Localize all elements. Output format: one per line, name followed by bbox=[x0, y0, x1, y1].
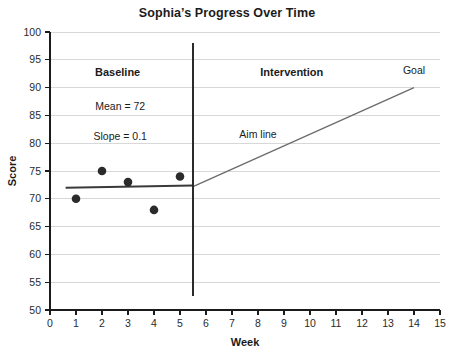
x-axis-tick-labels: 0123456789101112131415 bbox=[47, 317, 446, 329]
x-axis-tick-label: 3 bbox=[125, 317, 131, 329]
baseline-phase-label: Baseline bbox=[95, 66, 140, 78]
y-axis-tick-label: 100 bbox=[23, 26, 41, 38]
data-point-marker bbox=[124, 178, 133, 187]
y-axis-tick-label: 60 bbox=[29, 248, 41, 260]
x-axis-title: Week bbox=[231, 336, 260, 348]
data-point-marker bbox=[98, 167, 107, 176]
y-axis-tick-label: 95 bbox=[29, 53, 41, 65]
x-axis-tick-label: 13 bbox=[382, 317, 394, 329]
y-axis-tick-label: 80 bbox=[29, 137, 41, 149]
x-axis-tick-label: 4 bbox=[151, 317, 157, 329]
x-axis-tick-label: 8 bbox=[255, 317, 261, 329]
baseline-slope-label: Slope = 0.1 bbox=[93, 130, 147, 142]
y-axis-tick-label: 65 bbox=[29, 220, 41, 232]
data-point-marker bbox=[150, 206, 159, 215]
aim-line-label: Aim line bbox=[239, 128, 277, 140]
y-axis-tick-labels: 50556065707580859095100 bbox=[23, 26, 41, 316]
x-axis-tick-label: 7 bbox=[229, 317, 235, 329]
y-axis-tick-label: 75 bbox=[29, 165, 41, 177]
x-axis-tick-label: 6 bbox=[203, 317, 209, 329]
y-axis-tick-label: 70 bbox=[29, 192, 41, 204]
progress-chart-plot: 50556065707580859095100 0123456789101112… bbox=[0, 0, 454, 355]
x-axis-tick-label: 15 bbox=[434, 317, 446, 329]
x-axis-tick-label: 5 bbox=[177, 317, 183, 329]
aim-line bbox=[193, 88, 414, 187]
data-point-marker bbox=[72, 195, 81, 204]
x-axis-tick-label: 12 bbox=[356, 317, 368, 329]
chart-container: Sophia’s Progress Over Time 505560657075… bbox=[0, 0, 454, 355]
x-axis-tick-label: 1 bbox=[73, 317, 79, 329]
baseline-mean-label: Mean = 72 bbox=[95, 100, 145, 112]
y-axis-tick-label: 50 bbox=[29, 304, 41, 316]
annotations-group: BaselineMean = 72Slope = 0.1Intervention… bbox=[93, 64, 425, 143]
x-axis-tick-label: 2 bbox=[99, 317, 105, 329]
x-axis-tick-label: 0 bbox=[47, 317, 53, 329]
x-axis-tick-label: 9 bbox=[281, 317, 287, 329]
y-axis-tick-label: 55 bbox=[29, 276, 41, 288]
y-axis-title: Score bbox=[6, 156, 18, 187]
data-point-marker bbox=[176, 172, 185, 181]
x-axis-tick-label: 14 bbox=[408, 317, 420, 329]
intervention-phase-label: Intervention bbox=[260, 66, 323, 78]
data-points-group bbox=[72, 167, 185, 215]
y-axis-tick-label: 90 bbox=[29, 81, 41, 93]
x-axis-tick-label: 10 bbox=[304, 317, 316, 329]
y-axis-tick-label: 85 bbox=[29, 109, 41, 121]
goal-label: Goal bbox=[403, 64, 425, 76]
x-axis-tick-label: 11 bbox=[331, 317, 342, 329]
